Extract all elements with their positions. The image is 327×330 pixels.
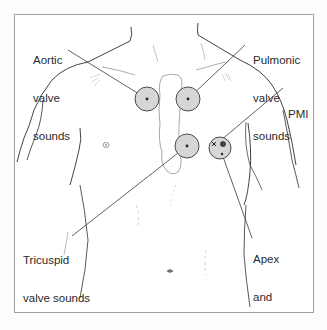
tricuspid-label: Tricuspid valve sounds (may also radiate…	[23, 229, 90, 330]
aortic-label-line: valve	[33, 92, 70, 105]
aortic-label: Aortic valve sounds	[33, 29, 70, 168]
tricuspid-site-dot	[186, 145, 189, 148]
mitral-label-line: and	[253, 291, 311, 304]
aortic-label-line: Aortic	[33, 54, 70, 67]
diagram-canvas: Aortic valve sounds Pulmonic valve sound…	[0, 0, 327, 330]
mitral-site-dot	[221, 153, 223, 155]
pulmonic-label-line: Pulmonic	[253, 54, 300, 67]
aortic-site-dot	[146, 98, 149, 101]
tricuspid-label-line: valve sounds	[23, 292, 90, 305]
pmi-label: PMI	[288, 83, 308, 146]
mitral-pmi-site-circle	[209, 137, 231, 159]
tricuspid-label-line: Tricuspid	[23, 254, 90, 267]
left-nipple-dot	[105, 144, 107, 146]
mitral-label-line: Apex	[253, 253, 311, 266]
neck-right-outline	[198, 23, 199, 35]
navel	[167, 270, 173, 273]
pmi-label-line: PMI	[288, 108, 308, 121]
mitral-label: Apex and mitral valve sounds	[253, 228, 311, 330]
mitral-nipple-icon	[220, 141, 225, 146]
aortic-label-line: sounds	[33, 130, 70, 143]
pulmonic-site-dot	[187, 98, 190, 101]
